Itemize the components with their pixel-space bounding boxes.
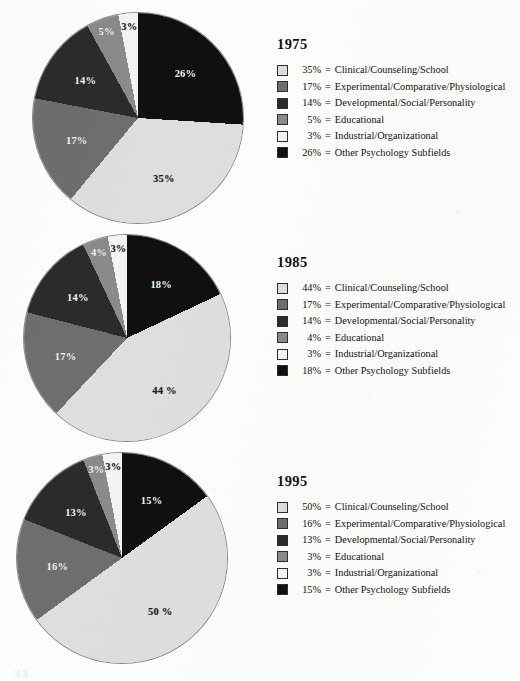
legend-label-other: Other Psychology Subfields [335, 145, 451, 162]
legend-percent-experimental: 17% [295, 297, 321, 314]
slice-label-0: 50 % [148, 605, 172, 616]
slice-label-3: 3% [88, 464, 104, 475]
slice-label-5: 18% [150, 279, 172, 290]
legend-label-clinical: Clinical/Counseling/School [335, 499, 449, 516]
legend-item-developmental: 13% = Developmental/Social/Personality [277, 532, 517, 549]
slice-label-1: 17% [66, 135, 88, 146]
chart-title-1995: 1995 [277, 473, 517, 490]
pie-chart-1995: 15%50 %16%13%3%3% [17, 453, 227, 663]
legend-swatch-experimental [277, 81, 288, 92]
legend-item-other: 15% = Other Psychology Subfields [277, 582, 517, 599]
legend-label-experimental: Experimental/Comparative/Physiological [335, 79, 505, 96]
pie-chart-1985: 18%44 %17%14%4%3% [24, 235, 230, 441]
legend-percent-other: 15% [295, 582, 321, 599]
slice-label-4: 3% [110, 242, 126, 253]
legend-percent-educational: 5% [295, 112, 321, 129]
legend-label-educational: Educational [335, 549, 384, 566]
legend-percent-developmental: 13% [295, 532, 321, 549]
legend-swatch-industrial [277, 349, 288, 360]
pie-figure-1995: 15%50 %16%13%3%3% 1995 50% = Clinical/Co… [0, 450, 520, 681]
slice-label-1: 17% [55, 350, 77, 361]
slice-label-1: 16% [47, 561, 69, 572]
slice-label-2: 13% [65, 506, 87, 517]
legend-percent-experimental: 16% [295, 516, 321, 533]
legend-1995: 1995 50% = Clinical/Counseling/School 16… [277, 473, 517, 598]
legend-item-educational: 4% = Educational [277, 330, 517, 347]
legend-separator: = [325, 95, 331, 112]
legend-swatch-experimental [277, 299, 288, 310]
legend-percent-developmental: 14% [295, 95, 321, 112]
legend-item-experimental: 16% = Experimental/Comparative/Physiolog… [277, 516, 517, 533]
legend-label-industrial: Industrial/Organizational [335, 565, 438, 582]
legend-separator: = [325, 532, 331, 549]
legend-item-educational: 3% = Educational [277, 549, 517, 566]
legend-separator: = [325, 145, 331, 162]
legend-item-clinical: 50% = Clinical/Counseling/School [277, 499, 517, 516]
legend-label-educational: Educational [335, 330, 384, 347]
legend-separator: = [325, 79, 331, 96]
legend-item-experimental: 17% = Experimental/Comparative/Physiolog… [277, 79, 517, 96]
legend-swatch-other [277, 147, 288, 158]
legend-swatch-educational [277, 114, 288, 125]
legend-swatch-clinical [277, 502, 288, 513]
legend-item-other: 26% = Other Psychology Subfields [277, 145, 517, 162]
legend-item-developmental: 14% = Developmental/Social/Personality [277, 313, 517, 330]
slice-label-0: 44 % [152, 384, 176, 395]
legend-separator: = [325, 280, 331, 297]
legend-swatch-other [277, 584, 288, 595]
pie-slices-1985 [24, 235, 230, 441]
legend-separator: = [325, 128, 331, 145]
legend-swatch-experimental [277, 518, 288, 529]
legend-separator: = [325, 297, 331, 314]
legend-separator: = [325, 330, 331, 347]
legend-label-experimental: Experimental/Comparative/Physiological [335, 297, 505, 314]
legend-label-clinical: Clinical/Counseling/School [335, 62, 449, 79]
legend-percent-educational: 4% [295, 330, 321, 347]
legend-separator: = [325, 346, 331, 363]
legend-swatch-developmental [277, 98, 288, 109]
legend-swatch-educational [277, 551, 288, 562]
legend-percent-industrial: 3% [295, 565, 321, 582]
legend-percent-industrial: 3% [295, 128, 321, 145]
legend-percent-industrial: 3% [295, 346, 321, 363]
chart-title-1985: 1985 [277, 254, 517, 271]
legend-separator: = [325, 62, 331, 79]
legend-swatch-clinical [277, 65, 288, 76]
legend-label-educational: Educational [335, 112, 384, 129]
legend-swatch-educational [277, 332, 288, 343]
slice-label-5: 26% [175, 68, 197, 79]
legend-item-clinical: 35% = Clinical/Counseling/School [277, 62, 517, 79]
legend-label-developmental: Developmental/Social/Personality [335, 95, 476, 112]
legend-percent-experimental: 17% [295, 79, 321, 96]
legend-swatch-other [277, 365, 288, 376]
slice-label-4: 3% [105, 461, 121, 472]
slice-label-0: 35% [153, 172, 175, 183]
legend-item-educational: 5% = Educational [277, 112, 517, 129]
legend-label-experimental: Experimental/Comparative/Physiological [335, 516, 505, 533]
pie-slices-1975 [33, 13, 243, 223]
legend-separator: = [325, 582, 331, 599]
legend-swatch-industrial [277, 568, 288, 579]
legend-swatch-clinical [277, 283, 288, 294]
legend-percent-educational: 3% [295, 549, 321, 566]
legend-item-experimental: 17% = Experimental/Comparative/Physiolog… [277, 297, 517, 314]
legend-percent-clinical: 50% [295, 499, 321, 516]
legend-separator: = [325, 516, 331, 533]
legend-separator: = [325, 565, 331, 582]
legend-percent-other: 18% [295, 363, 321, 380]
legend-label-other: Other Psychology Subfields [335, 582, 451, 599]
pie-chart-1975: 26%35%17%14%5%3% [33, 13, 243, 223]
legend-swatch-industrial [277, 131, 288, 142]
legend-item-other: 18% = Other Psychology Subfields [277, 363, 517, 380]
legend-separator: = [325, 499, 331, 516]
legend-1985: 1985 44% = Clinical/Counseling/School 17… [277, 254, 517, 379]
pie-figure-1975: 26%35%17%14%5%3% 1975 35% = Clinical/Cou… [0, 0, 520, 230]
legend-item-industrial: 3% = Industrial/Organizational [277, 565, 517, 582]
legend-label-industrial: Industrial/Organizational [335, 346, 438, 363]
slice-label-5: 15% [141, 494, 163, 505]
slice-label-2: 14% [75, 74, 97, 85]
legend-swatch-developmental [277, 316, 288, 327]
slice-label-2: 14% [67, 292, 89, 303]
legend-item-industrial: 3% = Industrial/Organizational [277, 128, 517, 145]
pie-slices-1995 [17, 453, 227, 663]
